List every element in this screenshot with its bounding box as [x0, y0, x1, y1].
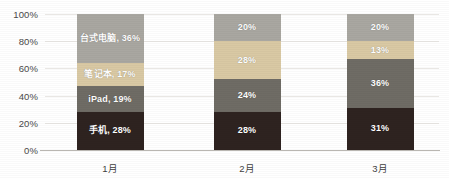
segment-value-label: 笔记本, 17%	[84, 70, 135, 79]
y-axis: 0%20%40%60%80%100%	[0, 0, 45, 178]
bar-segment-台式电脑[interactable]: 20%	[214, 14, 281, 41]
bar-segment-笔记本[interactable]: 13%	[347, 41, 414, 59]
segment-value-label: 20%	[371, 23, 389, 32]
x-axis-line	[40, 150, 440, 151]
bar-segment-手机[interactable]: 28%	[214, 112, 281, 150]
segment-value-label: 13%	[371, 46, 389, 55]
bar-segment-iPad[interactable]: iPad, 19%	[77, 86, 144, 112]
segment-value-label: 28%	[238, 56, 256, 65]
y-tick-label: 80%	[19, 36, 38, 47]
plot-area: 手机, 28%iPad, 19%笔记本, 17%台式电脑, 36%28%24%2…	[45, 14, 439, 150]
segment-value-label: iPad, 19%	[88, 95, 131, 104]
bar-segment-iPad[interactable]: 36%	[347, 59, 414, 108]
segment-value-label: 手机, 28%	[89, 126, 131, 135]
segment-value-label: 36%	[371, 79, 389, 88]
bar-3月[interactable]: 31%36%13%20%	[347, 14, 414, 150]
y-tick-label: 100%	[13, 9, 38, 20]
bar-2月[interactable]: 28%24%28%20%	[214, 14, 281, 150]
segment-value-label: 20%	[238, 23, 256, 32]
bar-segment-手机[interactable]: 31%	[347, 108, 414, 150]
bar-segment-手机[interactable]: 手机, 28%	[77, 112, 144, 150]
bar-segment-iPad[interactable]: 24%	[214, 79, 281, 112]
segment-value-label: 24%	[238, 91, 256, 100]
bar-segment-笔记本[interactable]: 28%	[214, 41, 281, 79]
bar-segment-台式电脑[interactable]: 20%	[347, 14, 414, 41]
y-tick-label: 0%	[24, 145, 38, 156]
segment-value-label: 28%	[238, 126, 256, 135]
x-tick-label: 1月	[102, 161, 117, 175]
stacked-bar-chart: 0%20%40%60%80%100% 手机, 28%iPad, 19%笔记本, …	[0, 0, 449, 178]
segment-value-label: 台式电脑, 36%	[80, 34, 140, 43]
y-tick-label: 40%	[19, 90, 38, 101]
x-tick-label: 2月	[239, 161, 254, 175]
y-tick-label: 60%	[19, 63, 38, 74]
bar-segment-台式电脑[interactable]: 台式电脑, 36%	[77, 14, 144, 63]
x-tick-label: 3月	[372, 161, 387, 175]
bar-segment-笔记本[interactable]: 笔记本, 17%	[77, 63, 144, 86]
segment-value-label: 31%	[371, 124, 389, 133]
y-tick-label: 20%	[19, 117, 38, 128]
bar-1月[interactable]: 手机, 28%iPad, 19%笔记本, 17%台式电脑, 36%	[77, 14, 144, 150]
x-axis: 1月2月3月	[45, 155, 439, 178]
